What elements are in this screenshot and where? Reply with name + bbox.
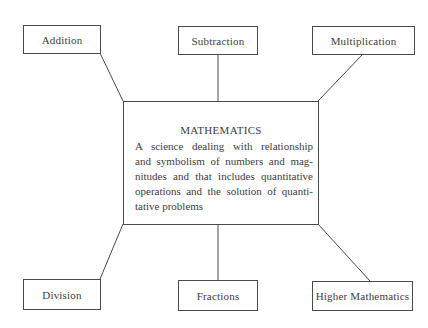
mathematics-concept-diagram: Addition Subtraction Multiplication MATH…	[0, 0, 428, 328]
node-division: Division	[23, 279, 101, 310]
connector-division	[100, 224, 123, 279]
node-addition-label: Addition	[42, 34, 83, 46]
central-node-title: MATHEMATICS	[124, 124, 318, 136]
description-line: nitudes and that includes quantitative	[135, 169, 313, 184]
node-addition: Addition	[23, 25, 101, 54]
node-subtraction: Subtraction	[178, 26, 258, 55]
connector-multiplication	[318, 54, 363, 101]
node-division-label: Division	[42, 289, 82, 301]
description-line: operations and the solution of quanti-	[135, 184, 313, 199]
central-node-description: A science dealing with relationship and …	[135, 139, 313, 214]
node-fractions-label: Fractions	[197, 290, 240, 302]
connector-higher-mathematics	[318, 224, 370, 281]
connector-addition	[100, 53, 123, 101]
central-node-mathematics: MATHEMATICS A science dealing with relat…	[123, 101, 319, 225]
node-multiplication-label: Multiplication	[331, 35, 397, 47]
description-line: and symbolism of numbers and mag-	[135, 154, 313, 169]
node-higher-mathematics: Higher Mathematics	[312, 281, 413, 311]
node-subtraction-label: Subtraction	[192, 35, 245, 47]
node-multiplication: Multiplication	[312, 26, 415, 55]
node-higher-mathematics-label: Higher Mathematics	[316, 290, 410, 302]
node-fractions: Fractions	[178, 280, 258, 311]
description-line: A science dealing with relationship	[135, 139, 313, 154]
description-line: tative problems	[135, 199, 313, 214]
